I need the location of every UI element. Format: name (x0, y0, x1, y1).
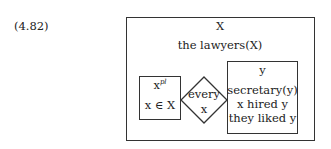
quantifier-word: every (184, 88, 224, 101)
quantifier-variable: x (194, 103, 214, 116)
right-condition-2: x hired y (227, 98, 298, 111)
right-referent: y (227, 64, 298, 77)
right-condition-1: secretary(y) (227, 84, 298, 97)
right-condition-3: they liked y (227, 112, 298, 125)
